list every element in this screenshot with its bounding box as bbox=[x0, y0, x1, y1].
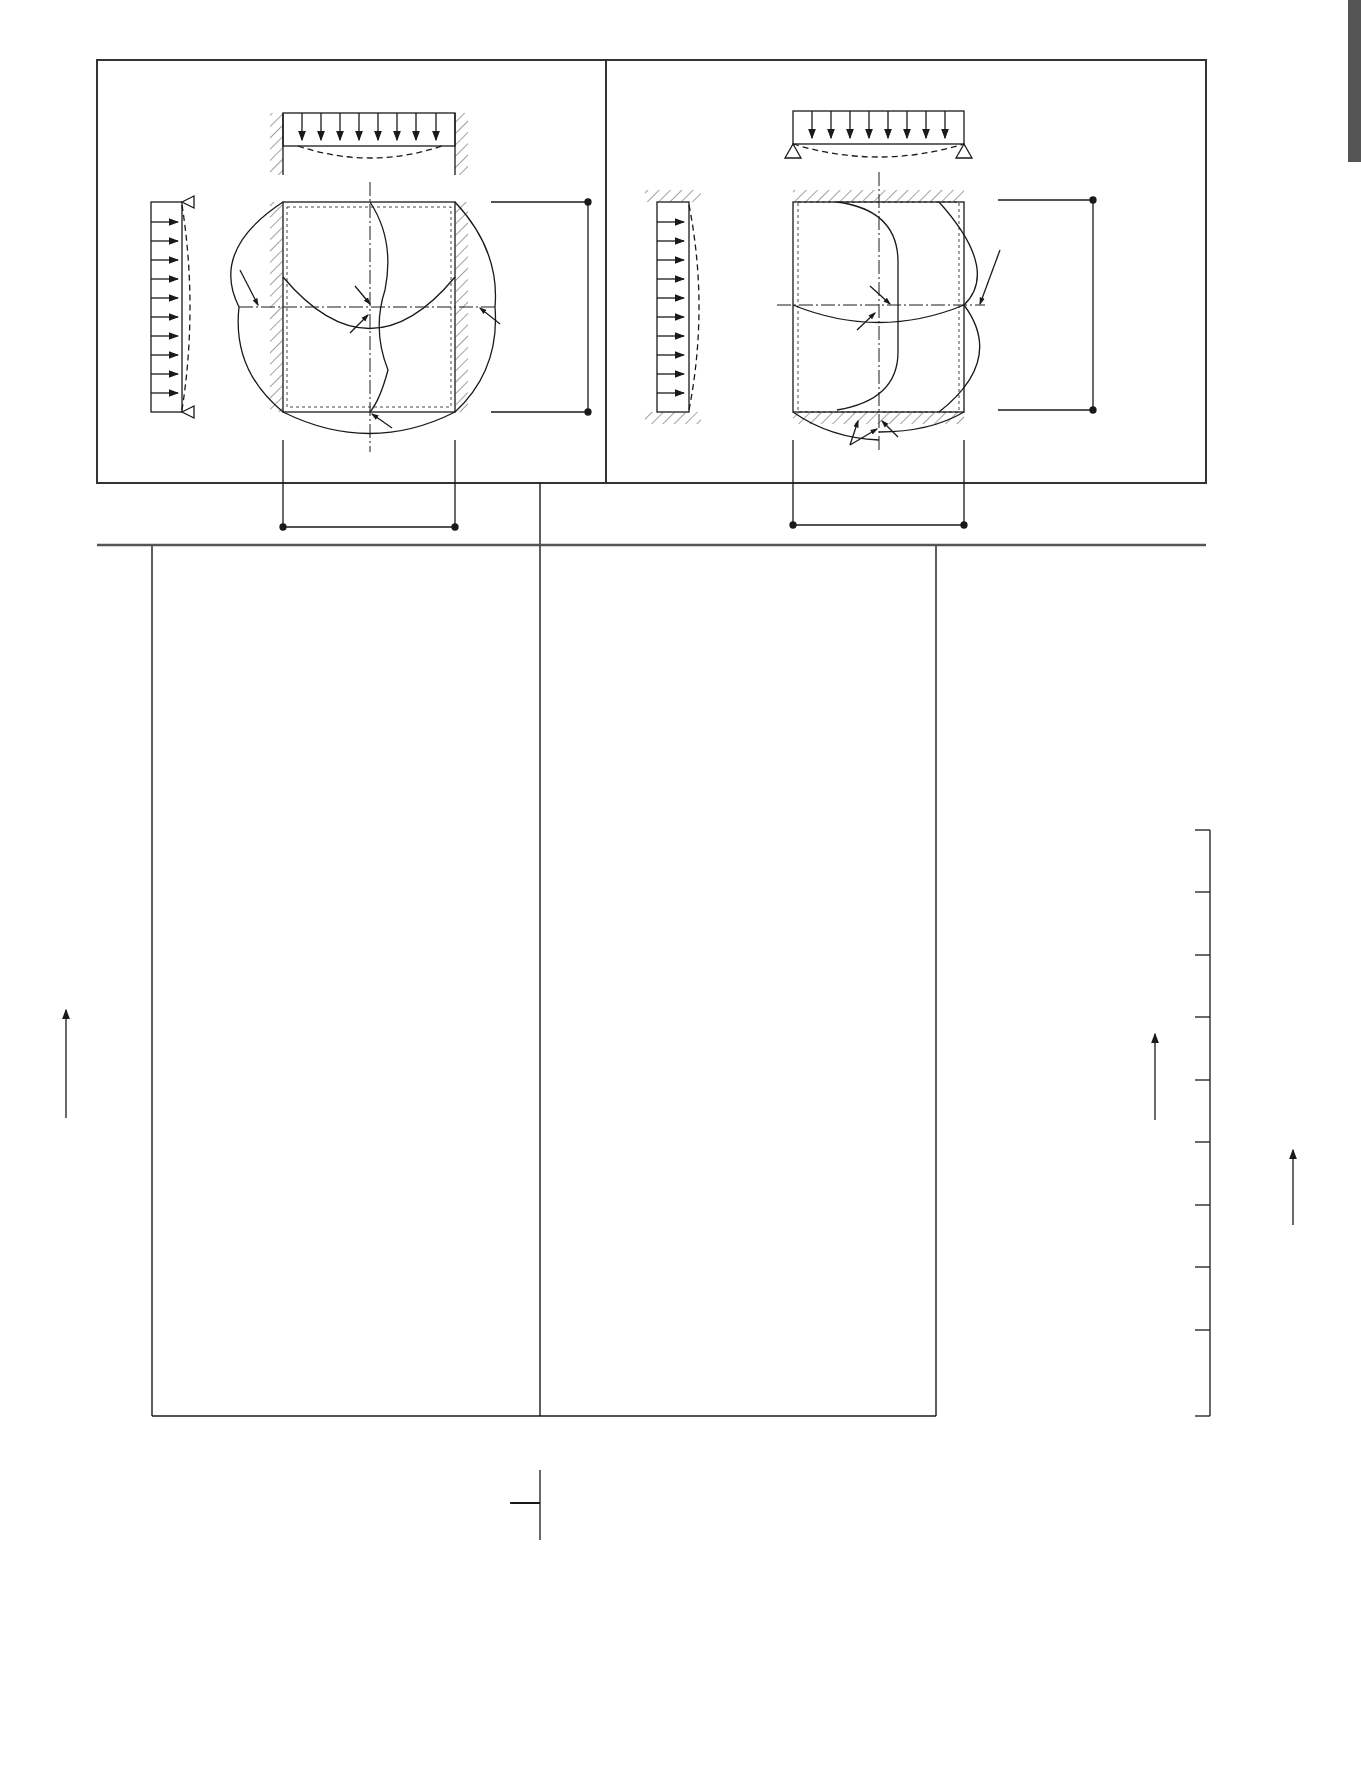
load-arrows-down-icon bbox=[812, 111, 945, 138]
load-arrows-down-icon bbox=[302, 113, 436, 140]
load-arrows-right-icon bbox=[151, 222, 178, 393]
support-triangle-icon bbox=[182, 406, 194, 418]
chart-axes bbox=[97, 483, 1206, 1416]
figure bbox=[0, 0, 1361, 1773]
diagram-left bbox=[151, 113, 591, 530]
support-triangle-icon bbox=[956, 144, 972, 158]
q-axis bbox=[1195, 830, 1210, 1416]
load-arrows-right-icon bbox=[657, 222, 684, 393]
diagram-right bbox=[645, 111, 1096, 528]
x-axis-title bbox=[510, 1470, 540, 1540]
support-triangle-icon bbox=[182, 196, 194, 208]
